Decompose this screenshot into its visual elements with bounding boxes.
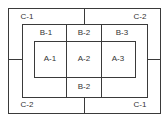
region-b2-top: B-2 <box>78 28 90 38</box>
region-b1: B-1 <box>40 28 52 38</box>
divider-c-left <box>8 59 22 60</box>
region-a2: A-2 <box>78 54 90 64</box>
region-b2-bottom: B-2 <box>78 82 90 92</box>
divider-c-right <box>147 59 161 60</box>
region-c1-bottom-right: C-1 <box>134 100 147 110</box>
divider-c-top <box>84 8 85 24</box>
region-c2-top-right: C-2 <box>134 12 147 22</box>
region-c1-top-left: C-1 <box>21 12 34 22</box>
divider-col-1 <box>66 24 67 98</box>
region-c2-bottom-left: C-2 <box>21 100 34 110</box>
divider-col-2 <box>101 24 102 98</box>
region-b3: B-3 <box>116 28 128 38</box>
divider-c-bottom <box>84 97 85 113</box>
region-a3: A-3 <box>112 54 124 64</box>
region-a1: A-1 <box>44 54 56 64</box>
